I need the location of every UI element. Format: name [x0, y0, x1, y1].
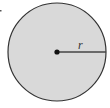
radius-label: r — [78, 38, 83, 52]
center-point — [54, 49, 59, 54]
circle-diagram: r — [0, 0, 110, 108]
stray-mark — [0, 10, 2, 12]
